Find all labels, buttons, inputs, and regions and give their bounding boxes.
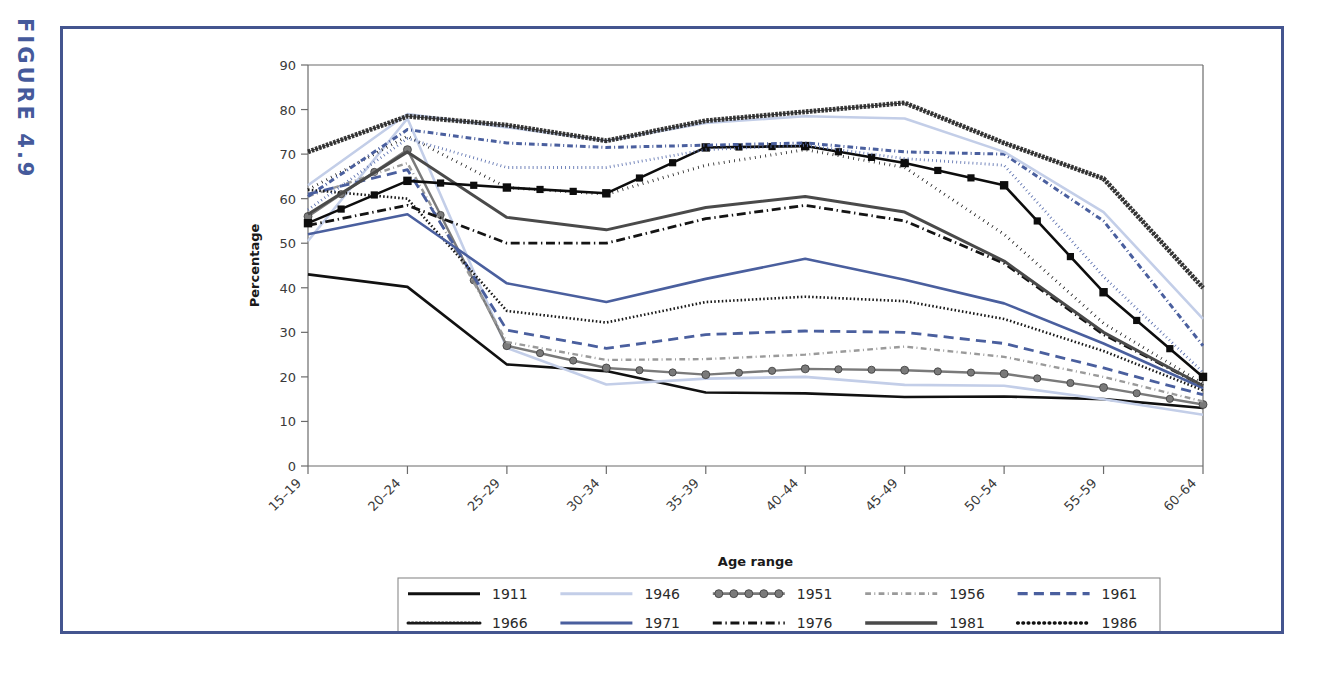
legend-label: 1911 (492, 586, 528, 602)
series-marker (602, 364, 610, 372)
legend-label: 1946 (644, 586, 680, 602)
series-marker (801, 365, 809, 373)
figure-root: FIGURE 4.9 010203040506070809015–1920–24… (0, 0, 1318, 679)
series-1971 (308, 214, 1203, 388)
series-line (308, 274, 1203, 408)
legend-item-1946[interactable]: 1946 (560, 586, 680, 602)
y-tick-label: 0 (288, 459, 296, 474)
series-line (308, 150, 1203, 405)
legend-item-1971[interactable]: 1971 (560, 615, 680, 631)
series-marker (1000, 370, 1008, 378)
x-tick-label: 20–24 (365, 476, 404, 515)
series-marker (1067, 379, 1074, 386)
y-tick-label: 60 (279, 192, 296, 207)
x-axis-title: Age range (718, 554, 793, 569)
series-marker (1034, 217, 1041, 224)
series-marker (934, 368, 941, 375)
y-axis-title: Percentage (247, 224, 262, 308)
series-line (308, 214, 1203, 388)
series-marker (768, 367, 775, 374)
series-1991 (304, 142, 1207, 381)
legend-label: 1961 (1102, 586, 1138, 602)
series-marker (1100, 384, 1108, 392)
x-tick-label: 55–59 (1061, 476, 1100, 515)
y-tick-label: 20 (279, 370, 296, 385)
x-tick-label: 40–44 (763, 476, 802, 515)
legend-label: 1951 (797, 586, 833, 602)
series-marker (1166, 345, 1173, 352)
series-marker (868, 366, 875, 373)
y-tick-label: 50 (279, 236, 296, 251)
series-group (304, 103, 1207, 415)
series-marker (1067, 253, 1074, 260)
series-marker (967, 174, 974, 181)
legend-swatch-marker (745, 590, 753, 598)
y-tick-label: 40 (279, 281, 296, 296)
series-marker (1034, 375, 1041, 382)
x-tick-label: 15–19 (266, 476, 305, 515)
legend-item-1956[interactable]: 1956 (865, 586, 985, 602)
legend-item-1976[interactable]: 1976 (713, 615, 833, 631)
series-marker (1199, 373, 1207, 381)
legend-swatch-marker (775, 590, 783, 598)
series-marker (570, 357, 577, 364)
legend-item-1986[interactable]: 1986 (1018, 615, 1138, 631)
series-marker (702, 371, 710, 379)
series-marker (636, 174, 643, 181)
x-tick-label: 25–29 (464, 476, 503, 515)
series-marker (602, 189, 610, 197)
legend-swatch-marker (760, 590, 768, 598)
series-marker (338, 205, 345, 212)
x-tick-label: 45–49 (862, 476, 901, 515)
y-tick-label: 30 (279, 325, 296, 340)
y-tick-label: 70 (279, 147, 296, 162)
series-marker (967, 369, 974, 376)
legend-label: 1971 (644, 615, 680, 631)
figure-number-text: FIGURE 4.9 (13, 18, 37, 179)
series-marker (735, 369, 742, 376)
series-marker (403, 177, 411, 185)
series-marker (570, 188, 577, 195)
series-marker (470, 182, 477, 189)
line-chart: 010203040506070809015–1920–2425–2930–343… (63, 29, 1281, 631)
series-marker (536, 186, 543, 193)
series-marker (503, 183, 511, 191)
series-1911 (308, 274, 1203, 408)
legend-swatch-marker (715, 590, 723, 598)
legend-label: 1986 (1102, 615, 1138, 631)
legend-label: 1956 (949, 586, 985, 602)
legend-item-1951[interactable]: 1951 (713, 586, 833, 602)
legend-item-1966[interactable]: 1966 (408, 615, 528, 631)
series-1976 (308, 205, 1203, 385)
legend-item-1911[interactable]: 1911 (408, 586, 528, 602)
series-marker (934, 167, 941, 174)
series-marker (669, 369, 676, 376)
series-marker (437, 179, 444, 186)
figure-number-label: FIGURE 4.9 (4, 18, 46, 238)
series-marker (1099, 288, 1107, 296)
series-marker (669, 159, 676, 166)
series-marker (1000, 181, 1008, 189)
series-marker (536, 350, 543, 357)
x-tick-label: 30–34 (564, 476, 603, 515)
x-tick-label: 50–54 (962, 476, 1001, 515)
series-marker (304, 219, 312, 227)
series-marker (1133, 317, 1140, 324)
y-tick-label: 10 (279, 414, 296, 429)
series-marker (636, 367, 643, 374)
y-tick-label: 80 (279, 103, 296, 118)
y-tick-label: 90 (279, 58, 296, 73)
legend-item-1961[interactable]: 1961 (1018, 586, 1138, 602)
x-tick-label: 60–64 (1161, 476, 1200, 515)
series-marker (1133, 390, 1140, 397)
series-marker (1166, 395, 1173, 402)
legend-label: 1981 (949, 615, 985, 631)
legend-label: 1976 (797, 615, 833, 631)
series-line (308, 205, 1203, 385)
series-marker (901, 366, 909, 374)
legend-label: 1966 (492, 615, 528, 631)
legend-swatch-marker (730, 590, 738, 598)
legend-item-1981[interactable]: 1981 (865, 615, 985, 631)
x-tick-label: 35–39 (663, 476, 702, 515)
series-marker (371, 191, 378, 198)
